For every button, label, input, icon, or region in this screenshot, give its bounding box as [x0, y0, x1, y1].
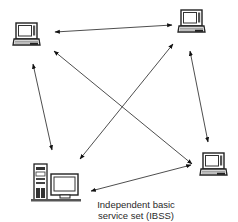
links [33, 25, 208, 191]
laptop-top-left-icon [13, 23, 40, 45]
caption-line-2: service set (IBSS) [86, 210, 186, 221]
link-tr-bl [80, 44, 173, 159]
link-tl-br [54, 51, 192, 164]
link-bl-br [91, 165, 191, 191]
laptop-top-right-icon [178, 10, 205, 32]
laptop-bottom-right-icon [200, 153, 227, 175]
caption-line-1: Independent basic [86, 199, 186, 210]
desktop-computer-icon [31, 164, 81, 202]
diagram-caption: Independent basic service set (IBSS) [86, 199, 186, 221]
link-tl-tr [55, 25, 172, 32]
link-tl-bl [33, 64, 52, 150]
link-tr-br [190, 51, 208, 142]
ibss-network-diagram [0, 0, 238, 222]
